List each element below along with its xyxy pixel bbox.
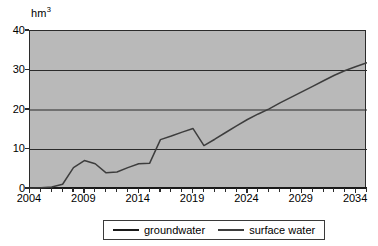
x-axis-tick-label: 2004	[9, 193, 49, 204]
series-line	[30, 63, 367, 189]
series-lines	[30, 63, 367, 189]
x-axis-minor-tick	[105, 188, 106, 192]
x-axis-minor-tick	[62, 188, 63, 192]
legend-item-label: surface water	[249, 225, 315, 236]
plot-area	[29, 30, 366, 188]
plot-svg	[30, 31, 367, 189]
x-axis-minor-tick	[170, 188, 171, 192]
x-axis-tick-label: 2024	[226, 193, 266, 204]
legend-line-icon	[218, 229, 244, 230]
x-axis-tick-label: 2009	[63, 193, 103, 204]
legend-item: surface water	[218, 225, 315, 236]
x-axis-minor-tick	[159, 188, 160, 192]
y-axis-title: hm3	[31, 7, 51, 19]
x-axis-minor-tick	[333, 188, 334, 192]
y-axis-title-text: hm	[31, 7, 47, 19]
x-axis-minor-tick	[268, 188, 269, 192]
chart-legend: groundwatersurface water	[103, 220, 325, 240]
legend-item: groundwater	[113, 225, 205, 236]
y-axis-title-superscript: 3	[47, 5, 51, 14]
y-axis-tick-label: 30	[1, 64, 25, 75]
x-axis-minor-tick	[116, 188, 117, 192]
x-axis-minor-tick	[225, 188, 226, 192]
y-axis-tick-label: 40	[1, 25, 25, 36]
x-axis-minor-tick	[323, 188, 324, 192]
y-axis-tick-label: 10	[1, 143, 25, 154]
x-axis-tick-label: 2014	[118, 193, 158, 204]
x-axis-minor-tick	[214, 188, 215, 192]
legend-item-label: groundwater	[144, 225, 205, 236]
x-axis-minor-tick	[279, 188, 280, 192]
x-axis-tick-label: 2019	[172, 193, 212, 204]
x-axis-minor-tick	[51, 188, 52, 192]
line-chart: hm3 010203040 20042009201420192024202920…	[0, 0, 378, 246]
legend-line-icon	[113, 229, 139, 232]
x-axis-tick-label: 2034	[335, 193, 375, 204]
y-axis-tick-label: 20	[1, 104, 25, 115]
x-axis-tick-label: 2029	[281, 193, 321, 204]
